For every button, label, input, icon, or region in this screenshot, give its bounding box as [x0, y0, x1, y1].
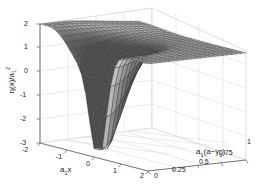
y-tick-label: -1 — [20, 91, 26, 98]
x-tick-label: 2 — [140, 172, 144, 179]
y-axis-ticks — [37, 24, 41, 143]
x-tick-label: -2 — [22, 146, 28, 153]
y-tick-label: -3 — [20, 139, 26, 146]
y-tick-label: 1 — [24, 43, 28, 50]
y-axis-label-head: η(x)/a — [7, 73, 16, 93]
y-axis-label: η(x)/a12 — [5, 57, 17, 103]
x-tick-label: 0 — [86, 160, 90, 167]
z-tick-label: 0 — [154, 172, 158, 179]
x-tick-label: 1 — [113, 167, 117, 174]
z-tick-label: 0.5 — [199, 158, 209, 165]
figure-3d-surface-plot: η(x)/a12 a1x a1(a−y0) 2 1 0 -1 -2 -3 -2 … — [0, 0, 265, 184]
x-axis-label: a1x — [60, 166, 72, 176]
z-tick-label: 1 — [247, 138, 251, 145]
y-tick-label: 0 — [24, 67, 28, 74]
z-axis-label-mid: (a−y — [204, 147, 220, 156]
y-tick-label: -2 — [20, 115, 26, 122]
y-axis-label-sub: 1 — [11, 70, 17, 73]
z-tick-label: 0.75 — [219, 149, 233, 156]
z-tick-label: 0.25 — [172, 166, 186, 173]
surface-plot-canvas — [0, 0, 265, 184]
x-axis-label-tail: x — [68, 165, 72, 174]
y-tick-label: 2 — [24, 20, 28, 27]
y-axis-label-sup: 2 — [5, 67, 11, 70]
x-tick-label: -1 — [56, 153, 62, 160]
